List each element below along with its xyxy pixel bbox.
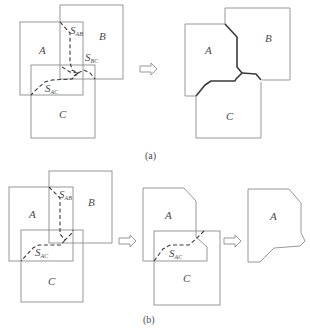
seam-ac-ab (196, 24, 242, 96)
figure-a-mosaic: A B C (185, 8, 290, 138)
label-s-ac: SAC (45, 82, 59, 95)
double-right-arrow-icon (140, 63, 157, 75)
seamline-junction (62, 67, 78, 76)
final-a-outline (248, 189, 305, 262)
label-c: C (59, 108, 67, 120)
label-a: A (38, 44, 46, 56)
image-c-rect (21, 230, 83, 302)
seamline-diagram: A B C SAB SBC SAC A B C (a) A B C SAB (0, 0, 310, 328)
label-a: A (269, 210, 277, 222)
double-right-arrow-icon (224, 235, 241, 247)
label-s-bc: SBC (85, 51, 99, 64)
label-s-ac: SAC (169, 247, 183, 260)
label-a: A (28, 208, 36, 220)
image-b-rect (60, 5, 123, 79)
figure-a-overlap: A B C SAB SBC SAC (20, 5, 123, 138)
label-b: B (88, 196, 95, 208)
label-s-ab: SAB (70, 24, 83, 37)
seamline-bc (78, 70, 95, 79)
label-s-ac: SAC (35, 246, 49, 259)
figure-b-intermediate: A C SAC (143, 188, 220, 305)
intermediate-a-outline (143, 188, 207, 261)
mosaic-b-outline (225, 8, 290, 80)
image-b-rect (49, 171, 112, 243)
figure-b-final: A (248, 189, 305, 262)
label-c: C (183, 272, 191, 284)
label-c: C (48, 275, 56, 287)
image-c-rect (154, 231, 220, 305)
mosaic-label-b: B (265, 32, 272, 44)
figure-b-overlap: A B C SAB SAC (9, 171, 112, 302)
label-b: B (99, 30, 106, 42)
mosaic-label-a: A (204, 44, 212, 56)
seam-bc (242, 73, 261, 80)
image-c-rect (31, 65, 95, 138)
mosaic-label-c: C (226, 110, 234, 122)
label-a: A (164, 209, 172, 221)
caption-a: (a) (145, 150, 156, 162)
label-s-ab: SAB (59, 188, 72, 201)
double-right-arrow-icon (119, 235, 136, 247)
caption-b: (b) (143, 314, 155, 326)
